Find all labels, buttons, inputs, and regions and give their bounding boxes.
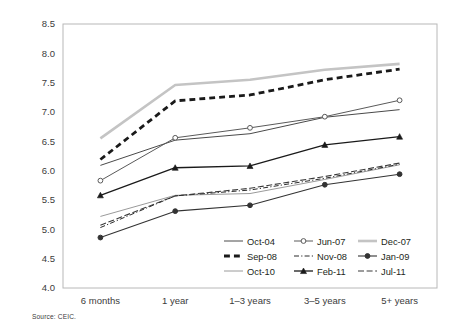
plot-area bbox=[63, 24, 437, 288]
data-point-marker bbox=[322, 114, 327, 119]
y-tick-label: 7.0 bbox=[42, 106, 55, 117]
y-tick-label: 5.5 bbox=[42, 194, 55, 205]
y-tick-label: 4.0 bbox=[42, 282, 55, 293]
chart-legend: Oct-04Jun-07Dec-07Sep-08Nov-08Jan-09Oct-… bbox=[224, 237, 411, 277]
legend-label: Jan-09 bbox=[381, 252, 409, 262]
y-tick-label: 6.0 bbox=[42, 165, 55, 176]
y-tick-label: 8.5 bbox=[42, 18, 55, 29]
data-point-marker bbox=[248, 125, 253, 130]
data-point-marker bbox=[248, 203, 253, 208]
data-point-marker bbox=[173, 209, 178, 214]
data-point-marker bbox=[397, 98, 402, 103]
x-axis: 6 months1 year1–3 years3–5 years5+ years bbox=[81, 295, 418, 306]
data-point-marker bbox=[301, 239, 306, 244]
y-axis: 4.04.55.05.56.06.57.07.58.08.5 bbox=[42, 18, 55, 293]
x-tick-label: 1 year bbox=[162, 295, 188, 306]
x-tick-label: 5+ years bbox=[381, 295, 418, 306]
plot-frame bbox=[63, 24, 437, 288]
data-point-marker bbox=[365, 254, 370, 259]
data-point-marker bbox=[322, 182, 327, 187]
y-tick-label: 4.5 bbox=[42, 253, 55, 264]
y-tick-label: 6.5 bbox=[42, 136, 55, 147]
legend-label: Jul-11 bbox=[381, 267, 406, 277]
data-point-marker bbox=[98, 235, 103, 240]
legend-label: Sep-08 bbox=[247, 252, 277, 262]
y-tick-label: 5.0 bbox=[42, 224, 55, 235]
legend-label: Dec-07 bbox=[381, 237, 411, 247]
legend-label: Oct-04 bbox=[247, 237, 275, 247]
y-tick-label: 7.5 bbox=[42, 77, 55, 88]
data-point-marker bbox=[397, 172, 402, 177]
legend-label: Feb-11 bbox=[317, 267, 346, 277]
legend-label: Jun-07 bbox=[317, 237, 345, 247]
source-note: Source: CEIC. bbox=[32, 313, 76, 320]
data-point-marker bbox=[173, 135, 178, 140]
data-point-marker bbox=[98, 178, 103, 183]
legend-label: Nov-08 bbox=[317, 252, 347, 262]
chart-figure: 4.04.55.05.56.06.57.07.58.08.5 6 months1… bbox=[0, 0, 452, 331]
y-tick-label: 8.0 bbox=[42, 48, 55, 59]
x-tick-label: 1–3 years bbox=[229, 295, 271, 306]
x-tick-label: 3–5 years bbox=[304, 295, 346, 306]
x-tick-label: 6 months bbox=[81, 295, 120, 306]
legend-label: Oct-10 bbox=[247, 267, 275, 277]
line-chart: 4.04.55.05.56.06.57.07.58.08.5 6 months1… bbox=[0, 0, 452, 331]
